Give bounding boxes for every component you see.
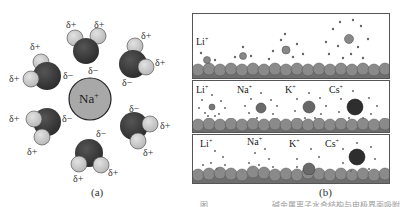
delta-plus-label: δ+ xyxy=(94,20,104,30)
ion-charge: + xyxy=(205,84,208,90)
ion-symbol: Li xyxy=(196,36,205,47)
ion-symbol: Na xyxy=(237,84,249,95)
delta-plus-label: δ+ xyxy=(30,42,40,52)
delta-plus-label: δ+ xyxy=(155,58,165,68)
ion-charge: + xyxy=(340,84,343,90)
ion-symbol: Na xyxy=(247,136,259,147)
delta-plus-label: δ+ xyxy=(9,74,19,84)
center-ion-label: Na+ xyxy=(79,92,99,105)
delta-minus-label: δ− xyxy=(88,66,98,76)
panel-a-caption: (a) xyxy=(91,186,103,198)
delta-plus-label: δ+ xyxy=(73,174,83,184)
figure-caption-fragment: 图……………………碱金属离子水合结构与电极界面吸附示意 xyxy=(200,199,400,207)
ion-charge: + xyxy=(205,36,208,42)
ion-symbol: Li xyxy=(196,84,205,95)
ion-charge: + xyxy=(94,91,99,100)
delta-minus-label: δ− xyxy=(129,104,139,114)
delta-minus-label: δ− xyxy=(122,78,132,88)
ion-charge: + xyxy=(259,136,262,142)
delta-minus-label: δ− xyxy=(63,71,73,81)
ion-label-cs: Cs+ xyxy=(329,84,343,95)
delta-plus-label: δ+ xyxy=(141,31,151,41)
water-molecules xyxy=(193,14,390,66)
ion-label-li: Li+ xyxy=(196,36,208,47)
delta-plus-label: δ+ xyxy=(27,147,37,157)
panel-b-row-2: Li+ Na+ K+ Cs+ xyxy=(192,80,390,133)
panel-b-caption: (b) xyxy=(319,186,332,198)
ion-label-li: Li+ xyxy=(196,84,208,95)
ion-label-k: K+ xyxy=(289,138,300,149)
panel-b-row-1: Li+ xyxy=(192,13,390,79)
ion-symbol: Cs xyxy=(329,84,340,95)
delta-plus-label: δ+ xyxy=(66,20,76,30)
ion-charge: + xyxy=(336,138,339,144)
ion-label-na: Na+ xyxy=(237,84,252,95)
ion-label-k: K+ xyxy=(285,84,296,95)
delta-plus-label: δ+ xyxy=(9,114,19,124)
delta-minus-label: δ− xyxy=(96,129,106,139)
panel-b-row-3: Li+ Na+ K+ Cs+ xyxy=(192,134,390,184)
ion-label-li: Li+ xyxy=(200,138,212,149)
ion-label-cs: Cs+ xyxy=(325,138,339,149)
ion-label-na: Na+ xyxy=(247,136,262,147)
ion-charge: + xyxy=(296,138,299,144)
ion-symbol: Na xyxy=(79,91,94,106)
ion-charge: + xyxy=(292,84,295,90)
ion-symbol: Cs xyxy=(325,138,336,149)
delta-minus-label: δ− xyxy=(62,114,72,124)
ion-charge: + xyxy=(209,138,212,144)
ion-symbol: Li xyxy=(200,138,209,149)
delta-plus-label: δ+ xyxy=(143,148,153,158)
delta-plus-label: δ+ xyxy=(108,168,118,178)
ion-charge: + xyxy=(249,84,252,90)
delta-plus-label: δ+ xyxy=(160,121,170,131)
panel-a: Na+ δ+ δ+ δ− δ+ δ+ δ− δ+ δ+ δ− δ+ δ− δ+ … xyxy=(0,0,190,207)
